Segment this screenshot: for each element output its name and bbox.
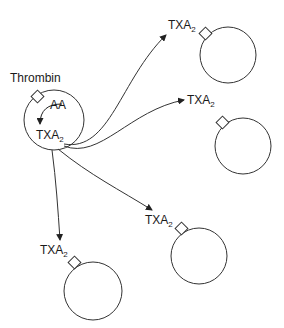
arrow-to-lower-middle — [58, 149, 152, 210]
receptor-icon — [199, 27, 212, 40]
receptor-icon — [68, 256, 81, 269]
target-cell-lower-left — [64, 256, 122, 320]
arrow-to-top-right — [64, 35, 166, 145]
target-cell-right — [215, 116, 271, 174]
receptor-icon — [216, 116, 229, 129]
txa2-label-right: TXA2 — [187, 93, 215, 109]
thrombin-label: Thrombin — [10, 71, 61, 85]
txa2-label-lower-middle: TXA2 — [145, 213, 173, 229]
txa2-label-top-right: TXA2 — [168, 18, 196, 34]
target-cell-lower-middle — [171, 222, 227, 284]
source-txa2-label: TXA2 — [36, 128, 64, 144]
arrow-to-lower-left — [52, 150, 60, 240]
arrow-to-right — [64, 100, 184, 148]
receptor-icon — [175, 222, 188, 235]
target-cell-top-right — [199, 27, 256, 83]
diagram-canvas: Thrombin AA TXA2 TXA2 TXA2 TXA2 TXA2 — [0, 0, 284, 328]
aa-label: AA — [50, 98, 66, 112]
txa2-label-lower-left: TXA2 — [40, 243, 68, 259]
